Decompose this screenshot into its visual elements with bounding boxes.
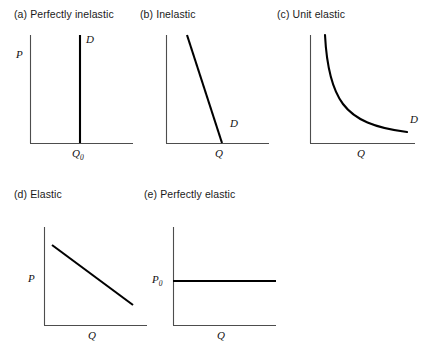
panel-title-e: (e) Perfectly elastic [144, 188, 235, 201]
panel-title-d: (d) Elastic [14, 188, 62, 201]
y-tick-label-e-subscript: 0 [159, 279, 163, 288]
curve-label-c: D [410, 114, 418, 125]
x-axis-label-b: Q [215, 148, 223, 159]
panel-perfectly-elastic: (e) Perfectly elastic P0 Q [144, 188, 304, 348]
panel-perfectly-inelastic: (a) Perfectly inelastic P Q0 D [14, 8, 154, 168]
x-tick-label-a: Q0 [72, 148, 84, 163]
panel-title-a: (a) Perfectly inelastic [14, 8, 114, 21]
plot-area-e [144, 206, 294, 336]
x-axis-label-c: Q [357, 148, 365, 159]
panel-unit-elastic: (c) Unit elastic Q D [277, 8, 427, 168]
demand-curve-d [52, 245, 133, 305]
plot-area-c [277, 26, 427, 156]
demand-curve-b [187, 35, 222, 143]
x-axis-label-d: Q [88, 330, 96, 341]
x-tick-label-a-text: Q [72, 147, 80, 159]
y-tick-label-e: P0 [152, 274, 162, 289]
curve-label-a: D [86, 34, 94, 45]
panel-elastic: (d) Elastic P Q [14, 188, 154, 348]
y-tick-label-e-text: P [152, 273, 159, 285]
plot-area-d [14, 206, 144, 336]
panel-title-b: (b) Inelastic [140, 8, 196, 21]
x-tick-label-a-subscript: 0 [80, 153, 84, 162]
demand-curve-c [325, 35, 407, 132]
panel-title-c: (c) Unit elastic [277, 8, 345, 21]
elasticity-figure: (a) Perfectly inelastic P Q0 D (b) Inela… [0, 0, 427, 355]
x-axis-label-e: Q [217, 330, 225, 341]
y-axis-label-d: P [28, 273, 35, 284]
plot-area-b [140, 26, 280, 156]
curve-label-b: D [230, 118, 238, 129]
y-axis-label-a: P [16, 49, 23, 60]
plot-area-a [14, 26, 144, 156]
panel-inelastic: (b) Inelastic Q D [140, 8, 290, 168]
